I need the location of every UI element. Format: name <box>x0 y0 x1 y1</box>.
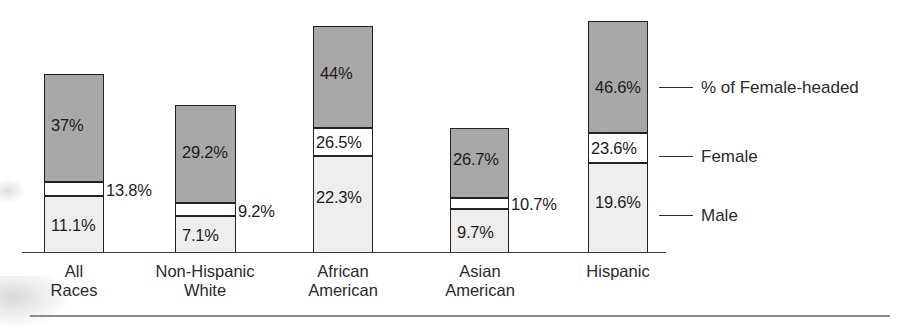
bar-value-female: 26.5% <box>316 134 362 151</box>
bar-segment-male[interactable]: 22.3% <box>313 156 373 253</box>
bar-segment-female[interactable]: 10.7% <box>450 198 509 209</box>
bar-segment-male[interactable]: 9.7% <box>450 209 509 253</box>
bar-group-all-races: 37% 13.8% 11.1% <box>44 74 104 253</box>
category-label-non-hispanic-white: Non-Hispanic White <box>130 262 280 300</box>
bar-segment-female-headed[interactable]: 26.7% <box>450 128 509 198</box>
category-label-all-races: All Races <box>0 262 149 300</box>
bar-segment-female[interactable]: 26.5% <box>313 128 373 156</box>
legend-label-female: Female <box>701 147 758 167</box>
bar-segment-female-headed[interactable]: 29.2% <box>175 105 236 203</box>
legend-leader-line <box>659 156 693 157</box>
bar-segment-male[interactable]: 19.6% <box>588 163 648 253</box>
category-label-hispanic: Hispanic <box>543 262 693 281</box>
category-label-african-american: African American <box>268 262 418 300</box>
legend-label-male: Male <box>701 206 738 226</box>
bar-value-female-headed: 29.2% <box>182 144 228 161</box>
bar-group-non-hispanic-white: 29.2% 9.2% 7.1% <box>175 105 236 253</box>
bar-value-male: 19.6% <box>595 194 641 211</box>
bar-value-female: 23.6% <box>591 140 637 157</box>
bar-value-female: 10.7% <box>511 196 557 213</box>
bar-segment-female-headed[interactable]: 37% <box>44 74 104 182</box>
bar-segment-male[interactable]: 7.1% <box>175 216 236 253</box>
bar-group-african-american: 44% 26.5% 22.3% <box>313 26 373 253</box>
bottom-divider-rule <box>30 315 890 317</box>
bar-value-female-headed: 26.7% <box>453 151 499 168</box>
bar-value-female-headed: 46.6% <box>595 79 641 96</box>
bar-segment-female[interactable]: 23.6% <box>588 133 648 163</box>
bar-segment-male[interactable]: 11.1% <box>44 196 104 253</box>
bar-segment-female-headed[interactable]: 46.6% <box>588 21 648 133</box>
bar-value-male: 11.1% <box>51 217 96 234</box>
bar-value-female-headed: 44% <box>320 65 352 82</box>
bar-group-asian-american: 26.7% 10.7% 9.7% <box>450 128 509 253</box>
bar-value-male: 22.3% <box>316 189 362 206</box>
bar-value-female: 9.2% <box>238 203 275 220</box>
x-axis-line <box>22 252 666 253</box>
legend-leader-line <box>659 215 693 216</box>
bar-value-female-headed: 37% <box>51 117 83 134</box>
bar-value-female: 13.8% <box>106 182 152 199</box>
legend-label-female-headed: % of Female-headed <box>701 78 859 98</box>
legend-leader-line <box>659 87 693 88</box>
bar-segment-female-headed[interactable]: 44% <box>313 26 373 128</box>
stacked-bar-chart: 37% 13.8% 11.1% 29.2% 9.2% 7.1% 44% 26.5… <box>0 0 897 328</box>
category-label-asian-american: Asian American <box>405 262 555 300</box>
bar-segment-female[interactable]: 13.8% <box>44 182 104 196</box>
bar-value-male: 9.7% <box>457 224 494 241</box>
bar-value-male: 7.1% <box>182 227 219 244</box>
bar-segment-female[interactable]: 9.2% <box>175 203 236 216</box>
bar-group-hispanic: 46.6% 23.6% 19.6% <box>588 21 648 253</box>
